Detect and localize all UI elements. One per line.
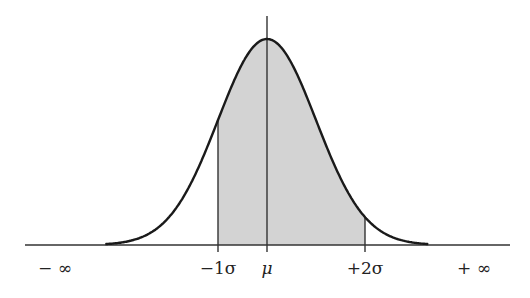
label-positive-infinity: + ∞ bbox=[457, 258, 491, 278]
label-mu: μ bbox=[261, 258, 272, 278]
label-minus-1-sigma-text: −1σ bbox=[200, 258, 237, 278]
normal-distribution-diagram bbox=[0, 0, 530, 298]
label-plus-2-sigma: +2σ bbox=[347, 258, 384, 278]
label-negative-infinity: − ∞ bbox=[38, 258, 72, 278]
label-minus-1-sigma: −1σ bbox=[200, 258, 237, 278]
